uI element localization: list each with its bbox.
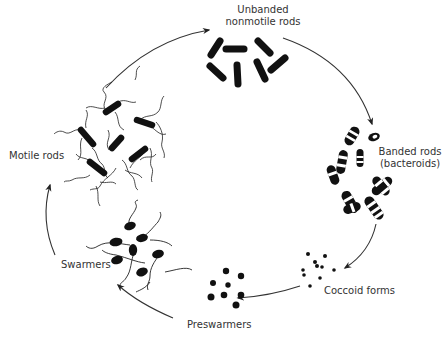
label-banded-line2: (bacteroids) (378, 158, 442, 170)
arrow-motile-to-unbanded (106, 30, 209, 88)
label-banded-rods: Banded rods (bacteroids) (378, 146, 442, 170)
arrow-banded-to-coccoid (345, 224, 376, 268)
unbanded-rods-icon (210, 41, 285, 84)
motile-rods-icon (54, 66, 166, 206)
label-swarmers: Swarmers (61, 259, 111, 271)
coccoid-forms-icon (301, 252, 336, 288)
life-cycle-diagram: Unbanded nonmotile rods Banded rods (bac… (0, 0, 442, 337)
label-coccoid-forms: Coccoid forms (324, 285, 395, 297)
banded-rods-icon (325, 125, 394, 222)
label-unbanded-line2: nonmotile rods (218, 16, 308, 28)
label-banded-line1: Banded rods (378, 146, 442, 158)
label-unbanded-nonmotile-rods: Unbanded nonmotile rods (218, 4, 308, 28)
arrow-coccoid-to-preswarmers (238, 286, 300, 298)
label-preswarmers: Preswarmers (187, 319, 252, 331)
label-motile-rods: Motile rods (9, 150, 64, 162)
swarmers-icon (86, 200, 192, 292)
arrow-unbanded-to-banded (283, 38, 372, 124)
label-unbanded-line1: Unbanded (218, 4, 308, 16)
arrow-swarmers-to-motile (46, 185, 55, 255)
preswarmers-icon (208, 268, 245, 309)
arrow-preswarmers-to-swarmers (118, 285, 173, 318)
cycle-arrows (46, 30, 376, 318)
